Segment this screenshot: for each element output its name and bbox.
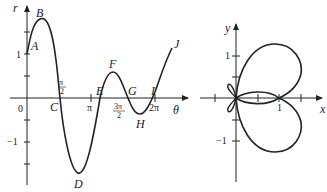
point-label-h: H <box>135 117 146 131</box>
svg-text:2: 2 <box>117 111 121 120</box>
figure: r θ 1 −1 0 π 2 π 3π 2 2π A B C D E F G H… <box>0 0 327 192</box>
point-label-d: D <box>73 177 83 191</box>
point-label-f: F <box>108 57 117 71</box>
upper-lobe <box>236 44 301 98</box>
lower-lobe <box>236 98 301 152</box>
x-tick-one: 1 <box>277 102 282 113</box>
svg-text:2: 2 <box>60 87 64 96</box>
tick-3pi-over-2: 3π 2 <box>113 102 125 120</box>
y-axis-label: y <box>224 21 231 35</box>
point-label-e: E <box>95 84 104 98</box>
point-label-g: G <box>128 84 137 98</box>
y-tick-minus-one: −1 <box>216 135 227 146</box>
tick-pi: π <box>87 102 92 113</box>
right-graph: y x 1 −1 1 <box>200 21 326 182</box>
left-graph: r θ 1 −1 0 π 2 π 3π 2 2π A B C D E F G H… <box>7 1 188 191</box>
tick-pi-over-2: π 2 <box>58 78 66 96</box>
point-label-a: A <box>30 39 39 53</box>
r-tick-one: 1 <box>16 49 21 60</box>
point-label-j: J <box>174 37 180 51</box>
svg-text:π: π <box>59 78 63 87</box>
point-label-c: C <box>50 100 59 114</box>
svg-text:3π: 3π <box>114 102 122 111</box>
tick-2pi: 2π <box>149 102 159 113</box>
x-axis-label: x <box>319 102 326 116</box>
r-tick-minus-one: −1 <box>7 136 18 147</box>
r-axis-label: r <box>13 1 18 15</box>
point-label-b: B <box>36 6 44 20</box>
origin-zero: 0 <box>18 103 23 114</box>
y-tick-one: 1 <box>225 50 230 61</box>
theta-axis-label: θ <box>173 103 179 117</box>
